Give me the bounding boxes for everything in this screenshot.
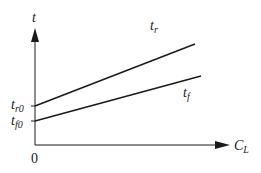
diagram-canvas: t tr tf tr0 tf0 0 CL bbox=[0, 0, 261, 173]
tr0-label: tr0 bbox=[11, 97, 24, 114]
tf-label: tf bbox=[183, 85, 191, 102]
y-axis-arrow-icon bbox=[31, 28, 39, 42]
x-axis-label: CL bbox=[234, 138, 249, 155]
y-axis-label: t bbox=[32, 10, 37, 25]
tr-line bbox=[35, 44, 195, 106]
tr-label: tr bbox=[150, 18, 158, 35]
origin-label: 0 bbox=[31, 151, 38, 166]
tf-line bbox=[35, 76, 201, 121]
tf0-label: tf0 bbox=[11, 113, 23, 130]
x-axis-arrow-icon bbox=[215, 141, 230, 149]
